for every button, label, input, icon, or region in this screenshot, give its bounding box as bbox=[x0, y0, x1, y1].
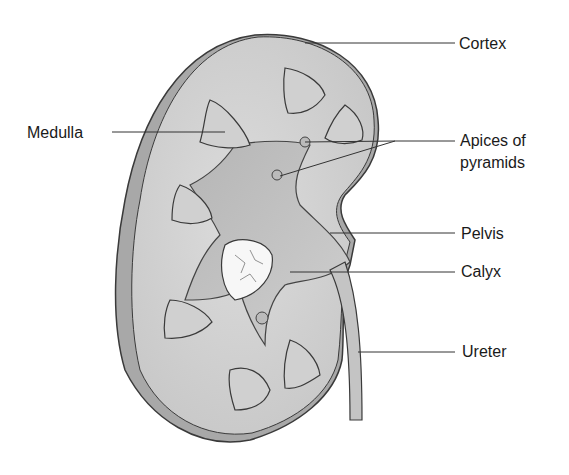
label-cortex: Cortex bbox=[459, 34, 506, 53]
label-pelvis: Pelvis bbox=[461, 224, 504, 243]
apex-dot bbox=[256, 312, 268, 324]
label-ureter: Ureter bbox=[462, 342, 506, 361]
label-apices-of-pyramids-line2: pyramids bbox=[460, 153, 525, 172]
apex-dot bbox=[272, 170, 282, 180]
label-medulla: Medulla bbox=[27, 123, 83, 142]
label-apices-of-pyramids-line1: Apices of bbox=[460, 131, 526, 150]
label-calyx: Calyx bbox=[461, 262, 501, 281]
